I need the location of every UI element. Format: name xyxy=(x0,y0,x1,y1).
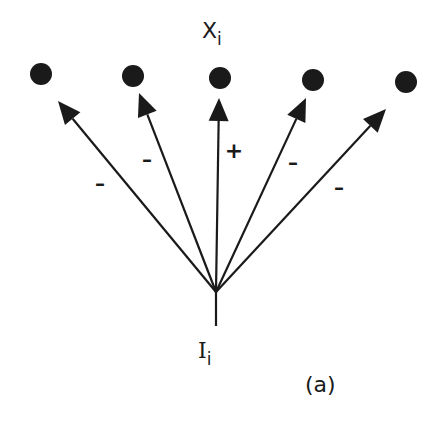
inhibitory-sign: – xyxy=(334,177,344,197)
output-node-3 xyxy=(209,67,231,89)
input-node-label-base: I xyxy=(198,338,207,363)
arrow-to-x3 xyxy=(209,98,229,292)
arrow-shaft xyxy=(73,119,216,292)
arrow-shaft xyxy=(147,114,216,292)
arrow-to-x4 xyxy=(216,98,306,292)
output-nodes xyxy=(30,63,417,93)
arrow-to-x5 xyxy=(216,109,386,292)
arrowhead-icon xyxy=(138,93,157,118)
diagram-canvas xyxy=(0,0,437,431)
output-node-5 xyxy=(395,71,417,93)
output-node-label: Xi xyxy=(202,20,222,48)
arrowhead-icon xyxy=(209,98,229,121)
output-node-4 xyxy=(302,69,324,91)
arrowhead-icon xyxy=(58,101,80,125)
input-node-label: Ii xyxy=(198,340,211,368)
output-node-label-subscript: i xyxy=(217,29,222,49)
output-node-2 xyxy=(122,65,144,87)
inhibitory-sign: – xyxy=(142,149,152,169)
arrow-to-x1 xyxy=(58,101,216,292)
panel-label: (a) xyxy=(305,374,336,396)
arrow-shaft xyxy=(216,121,219,292)
arrow-to-x2 xyxy=(138,93,216,292)
output-node-1 xyxy=(30,63,52,85)
inhibitory-sign: – xyxy=(288,152,298,172)
excitatory-sign: + xyxy=(225,140,243,162)
input-node-label-subscript: i xyxy=(207,349,212,369)
inhibitory-sign: – xyxy=(95,173,105,193)
output-node-label-base: X xyxy=(202,18,217,43)
